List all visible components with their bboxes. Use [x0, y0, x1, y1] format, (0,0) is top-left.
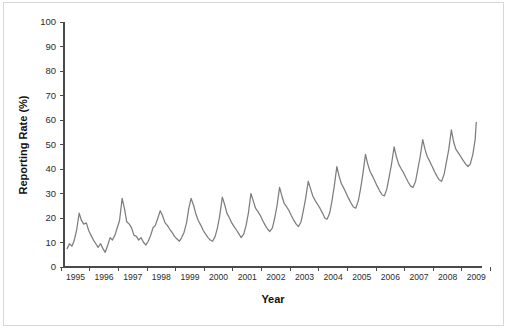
x-tick-label: 2004 [324, 272, 343, 282]
x-tick-label: 2001 [238, 272, 257, 282]
y-tick-label: 70 [45, 90, 56, 101]
y-tick-label: 30 [45, 188, 56, 199]
y-tick-label: 90 [45, 41, 56, 52]
y-axis-title: Reporting Rate (%) [17, 95, 29, 194]
y-tick-label: 0 [51, 261, 56, 272]
chart-figure: 0102030405060708090100 19951996199719981… [0, 0, 507, 330]
y-tick-label: 50 [45, 139, 56, 150]
x-tick-label: 1997 [123, 272, 142, 282]
y-tick-label: 40 [45, 163, 56, 174]
x-axis-title: Year [261, 293, 285, 305]
line-chart: 0102030405060708090100 19951996199719981… [0, 0, 507, 330]
x-tick-label: 2003 [295, 272, 314, 282]
x-tick-label: 2006 [381, 272, 400, 282]
x-tick-label: 2007 [409, 272, 428, 282]
y-tick-label: 100 [40, 16, 56, 27]
x-axis-ticks: 1995199619971998199920002001200220032004… [61, 267, 490, 282]
y-tick-label: 60 [45, 114, 56, 125]
x-tick-label: 2009 [467, 272, 486, 282]
x-tick-label: 1998 [152, 272, 171, 282]
x-tick-label: 2002 [266, 272, 285, 282]
y-tick-label: 80 [45, 65, 56, 76]
x-tick-label: 1995 [66, 272, 85, 282]
x-tick-label: 2005 [352, 272, 371, 282]
x-tick-label: 1996 [95, 272, 114, 282]
x-tick-label: 2000 [209, 272, 228, 282]
y-axis-ticks: 0102030405060708090100 [40, 16, 64, 272]
x-tick-label: 2008 [438, 272, 457, 282]
y-tick-label: 10 [45, 237, 56, 248]
data-series-line [67, 122, 476, 252]
x-tick-label: 1999 [180, 272, 199, 282]
y-tick-label: 20 [45, 212, 56, 223]
